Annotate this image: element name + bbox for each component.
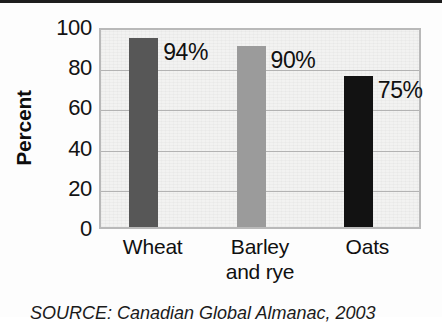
bar [344, 76, 373, 227]
y-axis-tick-label: 20 [34, 178, 92, 200]
y-axis-tick-label: 80 [34, 57, 92, 79]
plot-area [99, 28, 421, 229]
x-axis-tick-label: Barleyand rye [206, 234, 313, 284]
x-axis-tick-label-line: and rye [206, 259, 313, 284]
y-axis-tick-label: 100 [34, 17, 92, 39]
x-axis-tick-label-line: Barley [206, 234, 313, 259]
x-axis-tick-label-line: Oats [314, 234, 421, 259]
page-edge-artifact [0, 0, 442, 3]
y-axis-tick-label: 0 [34, 218, 92, 240]
source-note: SOURCE: Canadian Global Almanac, 2003 [30, 303, 430, 323]
bar [129, 38, 158, 227]
x-axis-tick-labels: WheatBarleyand ryeOats [99, 234, 421, 290]
y-axis-tick-label: 40 [34, 138, 92, 160]
y-axis-title: Percent [12, 73, 36, 183]
x-axis-tick-label-line: Wheat [99, 234, 206, 259]
y-axis-tick-labels: 100806040200 [34, 28, 92, 229]
x-axis-tick-label: Wheat [99, 234, 206, 259]
bar-value-label: 90% [271, 49, 316, 72]
bar-value-label: 94% [163, 41, 208, 64]
y-axis-tick-label: 60 [34, 97, 92, 119]
bar-value-label: 75% [378, 79, 423, 102]
bar [237, 46, 266, 227]
x-axis-tick-label: Oats [314, 234, 421, 259]
